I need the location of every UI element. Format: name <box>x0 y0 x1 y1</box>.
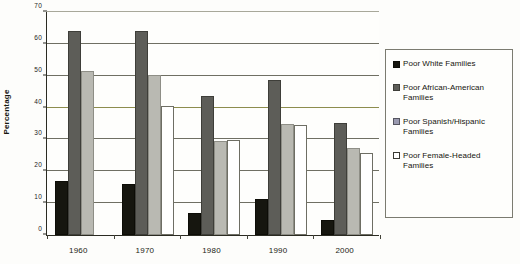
bar-1960-series-0[interactable] <box>55 181 68 235</box>
bar-1990-series-0[interactable] <box>255 199 268 235</box>
x-tick-mark-2000 <box>313 235 314 239</box>
legend-label-2: Poor Spanish/Hispanic Families <box>403 117 506 138</box>
x-tick-mark-1990 <box>247 235 248 239</box>
bar-1970-series-0[interactable] <box>122 184 135 235</box>
legend-swatch-black-icon <box>393 61 400 68</box>
y-tick-label-60: 60 <box>34 33 42 40</box>
legend-item-3[interactable]: Poor Female-Headed Families <box>393 151 506 172</box>
x-tick-label-1990: 1990 <box>269 246 288 255</box>
legend-label-1: Poor African-American Families <box>403 83 506 104</box>
legend-swatch-dark-gray-icon <box>393 84 400 91</box>
bar-chart-figure: Percentage 010203040506070 1960197019801… <box>0 0 520 264</box>
bar-1990-series-1[interactable] <box>268 80 281 235</box>
x-tick-mark-end <box>380 235 381 239</box>
bar-1960-series-1[interactable] <box>68 31 81 235</box>
bar-1980-series-2[interactable] <box>214 141 227 235</box>
x-tick-label-2000: 2000 <box>335 246 354 255</box>
legend-swatch-white-icon <box>393 152 400 159</box>
bar-2000-series-3[interactable] <box>360 153 373 235</box>
bar-1980-series-3[interactable] <box>227 140 240 235</box>
legend-item-2[interactable]: Poor Spanish/Hispanic Families <box>393 117 506 138</box>
bar-2000-series-2[interactable] <box>347 148 360 235</box>
x-tick-label-1960: 1960 <box>69 246 88 255</box>
bar-2000-series-0[interactable] <box>321 220 334 235</box>
bar-1990-series-2[interactable] <box>281 124 294 236</box>
bar-group-1960 <box>55 12 114 235</box>
bar-2000-series-1[interactable] <box>334 123 347 235</box>
x-tick-mark-1980 <box>180 235 181 239</box>
bar-1970-series-2[interactable] <box>148 75 161 235</box>
y-tick-label-20: 20 <box>34 161 42 168</box>
bar-group-2000 <box>321 12 380 235</box>
y-tick-label-0: 0 <box>38 225 42 232</box>
bar-1990-series-3[interactable] <box>294 125 307 235</box>
bar-1970-series-3[interactable] <box>161 106 174 235</box>
bar-group-1980 <box>188 12 247 235</box>
y-tick-label-40: 40 <box>34 97 42 104</box>
y-tick-label-70: 70 <box>34 2 42 9</box>
legend-item-1[interactable]: Poor African-American Families <box>393 83 506 104</box>
bar-group-1990 <box>255 12 314 235</box>
y-tick-label-50: 50 <box>34 65 42 72</box>
x-tick-label-1980: 1980 <box>202 246 221 255</box>
bar-1980-series-0[interactable] <box>188 213 201 235</box>
legend-item-0[interactable]: Poor White Families <box>393 59 506 70</box>
x-tick-mark-1960 <box>47 235 48 239</box>
x-tick-mark-1970 <box>114 235 115 239</box>
y-tick-label-30: 30 <box>34 129 42 136</box>
bar-1970-series-1[interactable] <box>135 31 148 235</box>
bar-group-1970 <box>122 12 181 235</box>
plot-area: 010203040506070 19601970198019902000 <box>46 12 379 236</box>
x-tick-label-1970: 1970 <box>136 246 155 255</box>
bar-1980-series-1[interactable] <box>201 96 214 235</box>
y-axis-title: Percentage <box>2 89 11 134</box>
bar-1960-series-2[interactable] <box>81 71 94 235</box>
y-tick-label-10: 10 <box>34 193 42 200</box>
legend-label-0: Poor White Families <box>403 59 476 70</box>
legend-label-3: Poor Female-Headed Families <box>403 151 506 172</box>
legend-swatch-light-gray-icon <box>393 118 400 125</box>
legend: Poor White FamiliesPoor African-American… <box>385 49 513 218</box>
bar-groups <box>47 12 379 235</box>
